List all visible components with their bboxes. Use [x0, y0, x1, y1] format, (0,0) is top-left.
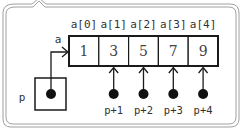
pointer-name-label: p	[19, 91, 26, 104]
offset-pointer-label: p+4	[194, 104, 213, 116]
array-cell: 3	[99, 36, 129, 66]
index-label: a[1]	[100, 18, 127, 31]
offset-pointer-label: p+2	[134, 104, 153, 116]
offset-pointer-label: p+1	[104, 104, 123, 116]
array-pointer-diagram: a[0]a[1]a[2]a[3]a[4] 13579 a p p+1p+2p+3…	[0, 0, 241, 129]
offset-pointer: p+1	[104, 68, 123, 117]
array-cell-value: 5	[139, 43, 148, 59]
offset-pointer: p+2	[134, 68, 153, 117]
array-cell: 5	[129, 36, 159, 66]
array-cell-value: 7	[169, 43, 178, 59]
index-labels: a[0]a[1]a[2]a[3]a[4]	[71, 18, 217, 31]
index-label: a[4]	[190, 18, 217, 31]
array: 13579	[69, 36, 218, 66]
array-cell-value: 9	[199, 43, 208, 59]
offset-pointer: p+3	[164, 68, 183, 117]
pointer-p: p	[19, 47, 68, 110]
array-cell: 1	[69, 36, 99, 66]
offset-pointer-label: p+3	[164, 104, 183, 116]
index-label: a[0]	[71, 18, 98, 31]
array-cell-value: 1	[79, 43, 88, 59]
index-label: a[3]	[160, 18, 187, 31]
array-name-label: a	[55, 33, 62, 46]
array-cell: 7	[158, 36, 188, 66]
array-cell: 9	[188, 36, 218, 66]
array-cell-value: 3	[109, 43, 118, 59]
offset-pointer-dot	[198, 89, 208, 99]
offset-pointer-dot	[139, 89, 149, 99]
offset-pointers: p+1p+2p+3p+4	[104, 68, 212, 117]
offset-pointer-dot	[168, 89, 178, 99]
offset-pointer-dot	[109, 89, 119, 99]
index-label: a[2]	[130, 18, 157, 31]
offset-pointer: p+4	[194, 68, 213, 117]
